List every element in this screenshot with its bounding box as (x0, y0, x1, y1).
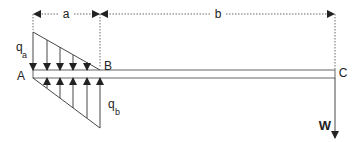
label-point-c: C (339, 66, 348, 80)
label-qb: q (108, 97, 115, 111)
label-qa-subscript: a (22, 50, 27, 60)
label-w: W (319, 118, 332, 133)
distributed-load-qb (33, 78, 100, 128)
label-qb-subscript: b (115, 107, 120, 117)
label-a: a (63, 7, 70, 21)
beam-diagram: a b A B C q a q b W (0, 0, 362, 142)
dimension-b: b (101, 7, 335, 70)
label-point-b: B (104, 59, 112, 73)
distributed-load-qa (33, 32, 100, 70)
label-point-a: A (17, 69, 25, 83)
label-b: b (215, 7, 222, 21)
beam (33, 70, 335, 78)
